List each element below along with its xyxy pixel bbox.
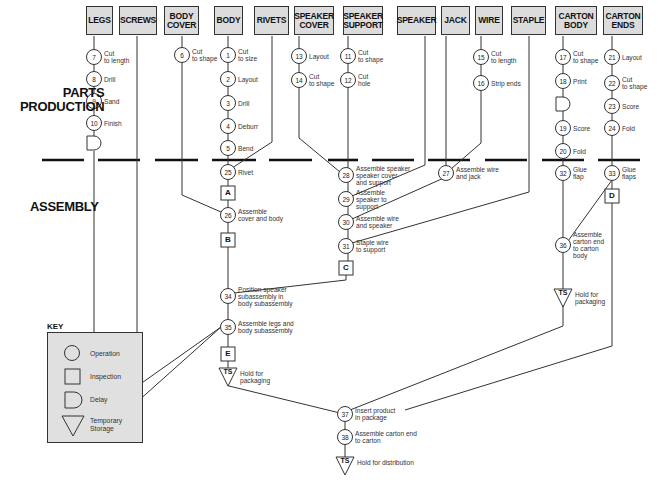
operation-label: Layout [238, 76, 258, 83]
operation-label: Assemble legs and body subassembly [238, 320, 294, 334]
operation-number: 27 [436, 170, 456, 177]
operation-number: 20 [553, 148, 573, 155]
operation-label: Fold [622, 125, 635, 132]
operation-label: Bend [238, 145, 253, 152]
operation-number: 7 [84, 54, 104, 61]
operation-label: Cut to shape [309, 73, 334, 87]
header-carton-body: CARTON BODY [555, 6, 597, 35]
storage-code: TS [338, 457, 352, 464]
operation-label: Fold [573, 148, 586, 155]
operation-number: 1 [218, 52, 238, 59]
operation-number: 5 [218, 145, 238, 152]
key-title: KEY [47, 322, 63, 331]
operation-label: Layout [622, 54, 642, 61]
operation-icon [65, 346, 80, 361]
operation-label: Print [573, 78, 587, 85]
operation-number: 36 [553, 242, 573, 249]
inspection-letter: D [605, 191, 619, 200]
header-jack: JACK [441, 6, 470, 35]
legend-temporary-storage: Temporary Storage [90, 417, 122, 432]
operation-label: Assemble speaker speaker cover and suppo… [356, 165, 410, 186]
operation-number: 26 [218, 212, 238, 219]
delay-icon [65, 392, 82, 408]
operation-label: Sand [104, 98, 119, 105]
header-wire: WIRE [475, 6, 503, 35]
header-body-cover: BODY COVER [164, 6, 199, 35]
section-assembly: ASSEMBLY [30, 200, 99, 214]
operation-number: 37 [335, 411, 355, 418]
storage-label: Hold for packaging [575, 291, 605, 305]
operation-number: 34 [218, 293, 238, 300]
operation-number: 31 [336, 243, 356, 250]
operation-number: 11 [338, 53, 358, 60]
operation-number: 16 [471, 80, 491, 87]
operation-number: 23 [602, 103, 622, 110]
delay-icon [87, 136, 101, 150]
operation-label: Assemble carton end to carton [355, 430, 417, 444]
legend-operation: Operation [90, 350, 120, 358]
operation-label: Cut to shape [573, 50, 598, 64]
storage-label: Hold for distribution [357, 459, 414, 466]
operation-label: Glue flaps [622, 166, 636, 180]
section-parts-production: PARTS PRODUCTION [20, 86, 104, 114]
operation-number: 33 [602, 170, 622, 177]
assembly-process-chart: LEGSSCREWSBODY COVERBODYRIVETSSPEAKER CO… [0, 0, 658, 492]
inspection-letter: B [221, 235, 235, 244]
operation-label: Cut to length [491, 50, 516, 64]
operation-number: 24 [602, 125, 622, 132]
header-screws: SCREWS [119, 6, 157, 35]
operation-label: Cut to length [104, 50, 129, 64]
operation-number: 17 [553, 54, 573, 61]
operation-label: Cut to shape [192, 48, 217, 62]
header-staple: STAPLE [511, 6, 546, 35]
delay-icon [556, 97, 570, 111]
operation-number: 12 [338, 77, 358, 84]
operation-number: 14 [289, 77, 309, 84]
storage-label: Hold for packaging [240, 370, 270, 384]
operation-number: 15 [471, 54, 491, 61]
operation-label: Assemble carton end to carton body [573, 231, 604, 259]
operation-number: 22 [602, 80, 622, 87]
operation-number: 35 [218, 324, 238, 331]
inspection-icon [65, 369, 80, 384]
operation-number: 32 [553, 170, 573, 177]
operation-label: Deburr [238, 123, 258, 130]
operation-label: Strip ends [491, 80, 521, 87]
operation-number: 18 [553, 78, 573, 85]
operation-label: Finish [104, 120, 122, 127]
operation-label: Insert product in package [355, 407, 395, 421]
operation-number: 28 [336, 172, 356, 179]
operation-label: Score [573, 125, 590, 132]
header-legs: LEGS [86, 6, 113, 35]
header-speaker: SPEAKER [397, 6, 436, 35]
operation-label: Staple wire to support [356, 239, 389, 253]
inspection-letter: A [221, 188, 235, 197]
operation-number: 2 [218, 76, 238, 83]
operation-number: 21 [602, 54, 622, 61]
operation-label: Assemble cover and body [238, 208, 283, 222]
operation-number: 4 [218, 123, 238, 130]
operation-number: 38 [335, 434, 355, 441]
operation-number: 3 [218, 100, 238, 107]
storage-code: TS [221, 368, 235, 375]
legend-box: Operation Inspection Delay Temporary Sto… [47, 332, 143, 443]
operation-label: Rivet [238, 169, 253, 176]
legend-inspection: Inspection [90, 373, 121, 381]
operation-number: 30 [336, 219, 356, 226]
operation-label: Cut to size [238, 48, 257, 62]
header-speaker-cover: SPEAKER COVER [294, 6, 334, 35]
storage-code: TS [556, 289, 570, 296]
inspection-letter: E [221, 349, 235, 358]
operation-label: Layout [309, 53, 329, 60]
operation-label: Cut to shape [622, 76, 647, 90]
header-rivets: RIVETS [254, 6, 289, 35]
operation-number: 10 [84, 120, 104, 127]
operation-label: Assemble wire and speaker [356, 215, 399, 229]
operation-label: Drill [104, 76, 115, 83]
legend-delay: Delay [90, 396, 107, 404]
operation-label: Position speaker subassembly in body sub… [238, 286, 293, 307]
operation-label: Cut to shape [358, 49, 383, 63]
inspection-letter: C [339, 263, 353, 272]
operation-number: 6 [172, 52, 192, 59]
header-speaker-support: SPEAKER SUPPORT [343, 6, 383, 35]
